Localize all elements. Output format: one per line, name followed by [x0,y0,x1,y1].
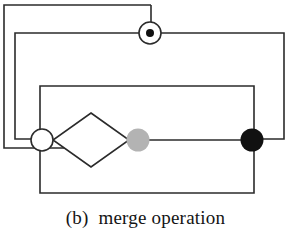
merge-transition-diamond [53,113,129,167]
left-place-node [31,129,53,151]
token-dot-icon [146,29,154,37]
black-place-node [241,129,264,152]
figure-merge-operation: (b) merge operation [0,0,291,238]
gray-place-node [127,129,150,152]
merge-operation-diagram [0,0,291,238]
figure-caption: (b) merge operation [0,206,291,230]
